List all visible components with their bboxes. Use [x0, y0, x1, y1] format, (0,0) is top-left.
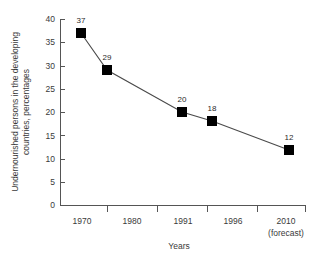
- y-tick-label-5: 5: [50, 177, 55, 187]
- y-tick-label-20: 20: [46, 107, 56, 117]
- data-point-marker: [207, 116, 217, 126]
- y-tick-label-35: 35: [46, 37, 56, 47]
- series-line: [81, 33, 289, 150]
- data-label-1970: 37: [77, 16, 86, 25]
- x-tick-label-1996: 1996: [224, 216, 243, 226]
- y-axis-ticks: [61, 20, 66, 206]
- y-tick-label-0: 0: [50, 200, 55, 210]
- chart-figure: Undernourished persons in the developing…: [0, 0, 325, 258]
- x-tick-label-1980: 1980: [123, 216, 142, 226]
- data-point-marker: [102, 65, 112, 75]
- x-axis-label: Years: [168, 241, 189, 251]
- x-tick-label-1970: 1970: [73, 216, 92, 226]
- y-tick-label-10: 10: [46, 154, 56, 164]
- x-tick-sublabel-forecast: (forecast): [268, 228, 304, 238]
- x-tick-label-2010: 2010: [277, 216, 296, 226]
- y-tick-label-25: 25: [46, 84, 56, 94]
- data-label-2010: 12: [285, 133, 294, 142]
- y-tick-label-30: 30: [46, 61, 56, 71]
- x-axis-ticks: [108, 206, 306, 213]
- y-tick-label-15: 15: [46, 131, 56, 141]
- x-tick-label-1991: 1991: [174, 216, 193, 226]
- data-label-1996: 18: [208, 104, 217, 113]
- data-point-marker: [76, 28, 86, 38]
- y-axis-label-line1: Undernourished persons in the developing: [10, 32, 20, 192]
- data-label-1991: 20: [178, 95, 187, 104]
- y-tick-label-40: 40: [46, 14, 56, 24]
- data-point-marker: [284, 145, 294, 155]
- line-chart: Undernourished persons in the developing…: [0, 0, 325, 258]
- data-point-marker: [177, 107, 187, 117]
- y-axis-label-line2: countries, percentages: [21, 69, 31, 155]
- data-label-1980: 29: [103, 53, 112, 62]
